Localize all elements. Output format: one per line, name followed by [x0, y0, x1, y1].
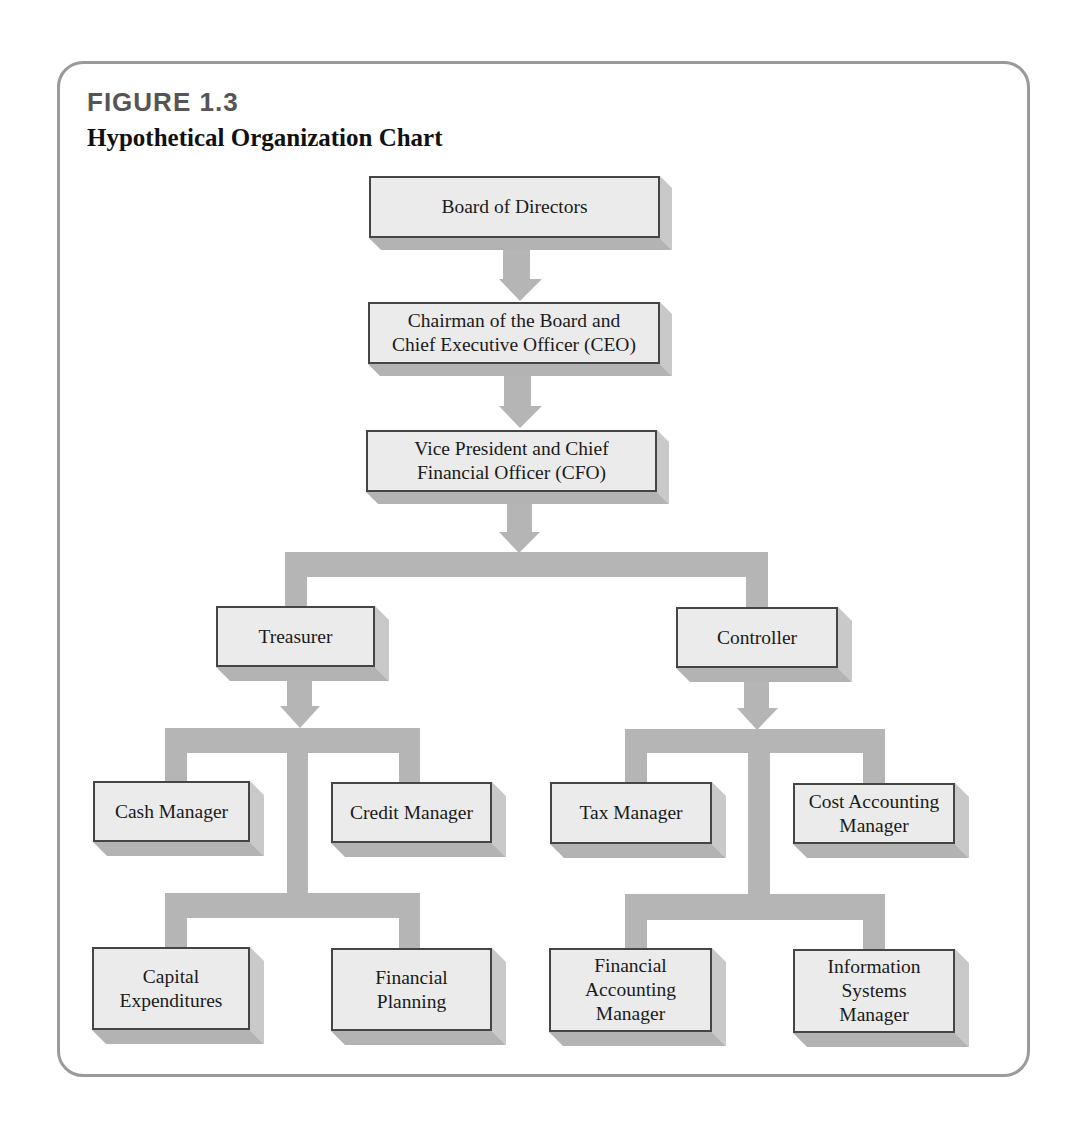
node-label: Cost Accounting Manager	[809, 790, 940, 838]
node-ceo: Chairman of the Board and Chief Executiv…	[368, 302, 660, 364]
node-credit-manager: Credit Manager	[331, 782, 492, 843]
node-label: Tax Manager	[579, 801, 682, 825]
node-label: Treasurer	[258, 625, 332, 649]
node-label: Credit Manager	[350, 801, 473, 825]
node-label: Controller	[717, 626, 797, 650]
node-label: Cash Manager	[115, 800, 228, 824]
node-label: Information Systems Manager	[827, 955, 920, 1027]
node-label: Capital Expenditures	[120, 965, 223, 1013]
node-capital-expenditures: Capital Expenditures	[92, 947, 250, 1030]
node-board-of-directors: Board of Directors	[369, 176, 660, 238]
node-cost-accounting-manager: Cost Accounting Manager	[793, 783, 955, 844]
node-financial-planning: Financial Planning	[331, 948, 492, 1031]
node-tax-manager: Tax Manager	[550, 782, 712, 844]
node-label: Financial Accounting Manager	[585, 954, 676, 1026]
branch-connector-cfo	[285, 552, 768, 608]
node-label: Chairman of the Board and Chief Executiv…	[392, 309, 636, 357]
node-information-systems-manager: Information Systems Manager	[793, 949, 955, 1033]
node-label: Vice President and Chief Financial Offic…	[414, 437, 608, 485]
node-controller: Controller	[676, 607, 838, 668]
node-treasurer: Treasurer	[216, 606, 375, 667]
node-label: Board of Directors	[441, 195, 587, 219]
node-financial-accounting-manager: Financial Accounting Manager	[549, 948, 712, 1032]
node-cfo: Vice President and Chief Financial Offic…	[366, 430, 657, 492]
node-cash-manager: Cash Manager	[93, 781, 250, 842]
node-label: Financial Planning	[375, 966, 448, 1014]
